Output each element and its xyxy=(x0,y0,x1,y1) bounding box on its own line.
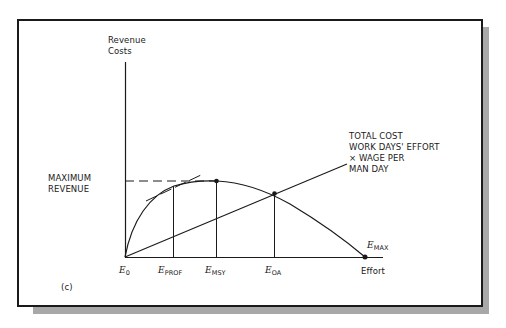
panel-label: (c) xyxy=(61,282,73,293)
emsy-label: EMSY xyxy=(205,265,226,279)
y-axis-label: Revenue Costs xyxy=(108,35,146,57)
eprof-main: E xyxy=(158,265,165,275)
eprof-sub: PROF xyxy=(165,269,183,277)
emsy-point xyxy=(214,179,219,184)
eoa-sub: OA xyxy=(272,269,282,277)
eoa-main: E xyxy=(265,265,272,275)
max-revenue-label: MAXIMUM REVENUE xyxy=(48,173,91,195)
e0-sub: 0 xyxy=(126,269,130,277)
emax-point xyxy=(363,255,368,260)
total-cost-line xyxy=(125,164,347,257)
y-axis-label-line2: Costs xyxy=(108,46,146,57)
emax-main: E xyxy=(367,240,374,250)
x-axis-label: Effort xyxy=(361,266,385,277)
eoa-point xyxy=(272,191,277,196)
emsy-main: E xyxy=(205,265,212,275)
cost-label-line1: TOTAL COST xyxy=(349,131,439,142)
eprof-label: EPROF xyxy=(158,265,182,279)
max-revenue-label-line1: MAXIMUM xyxy=(48,173,91,184)
e0-label: E0 xyxy=(119,265,130,279)
total-revenue-curve xyxy=(125,181,365,257)
y-axis-label-line1: Revenue xyxy=(108,35,146,46)
total-cost-label: TOTAL COST WORK DAYS' EFFORT × WAGE PER … xyxy=(349,131,439,175)
e0-main: E xyxy=(119,265,126,275)
emsy-sub: MSY xyxy=(212,269,226,277)
max-revenue-label-line2: REVENUE xyxy=(48,184,91,195)
cost-label-line3: × WAGE PER xyxy=(349,153,439,164)
eoa-label: EOA xyxy=(265,265,281,279)
cost-label-line2: WORK DAYS' EFFORT xyxy=(349,142,439,153)
emax-label: EMAX xyxy=(367,240,388,254)
cost-label-line4: MAN DAY xyxy=(349,164,439,175)
emax-sub: MAX xyxy=(374,244,389,252)
